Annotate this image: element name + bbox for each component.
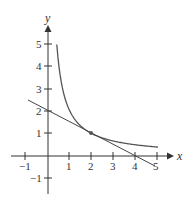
tangency-point — [89, 131, 93, 135]
x-axis-label: x — [176, 149, 183, 163]
y-tick-label: −1 — [30, 172, 42, 184]
x-tick-label: −1 — [19, 160, 31, 172]
y-axis-arrow-icon — [45, 25, 52, 32]
x-tick-label: 2 — [88, 160, 94, 172]
y-tick-label: 3 — [36, 83, 42, 95]
y-tick-label: 5 — [36, 38, 42, 50]
x-tick-label: 4 — [132, 160, 138, 172]
x-axis-arrow-icon — [167, 153, 174, 160]
y-tick-label: 1 — [36, 127, 42, 139]
y-tick-label: 4 — [36, 60, 42, 72]
y-axis-label: y — [44, 11, 51, 25]
curve-series — [57, 45, 158, 148]
x-tick-label: 5 — [153, 160, 159, 172]
chart: −1 1 2 3 4 5 5 4 3 2 1 −1 x y — [0, 0, 189, 207]
x-tick-label: 3 — [110, 160, 116, 172]
x-tick-label: 1 — [66, 160, 72, 172]
